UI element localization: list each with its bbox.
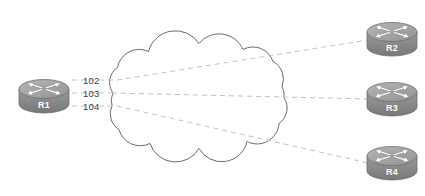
- router-r3[interactable]: R3: [367, 83, 417, 116]
- link-label-104: 104: [83, 101, 99, 112]
- router-r2-label: R2: [386, 43, 398, 53]
- link-label-103: 103: [83, 88, 99, 99]
- router-r1-label: R1: [38, 100, 50, 110]
- router-r3-label: R3: [386, 103, 398, 113]
- diagram-canvas: 102 103 104 R1 R2 R3 R4: [0, 0, 425, 196]
- router-r4-label: R4: [386, 167, 398, 177]
- network-diagram: 102 103 104 R1 R2 R3 R4: [0, 0, 425, 196]
- link-label-102: 102: [83, 75, 99, 86]
- router-r4[interactable]: R4: [367, 147, 417, 180]
- router-r2[interactable]: R2: [367, 23, 417, 56]
- router-r1[interactable]: R1: [19, 80, 69, 113]
